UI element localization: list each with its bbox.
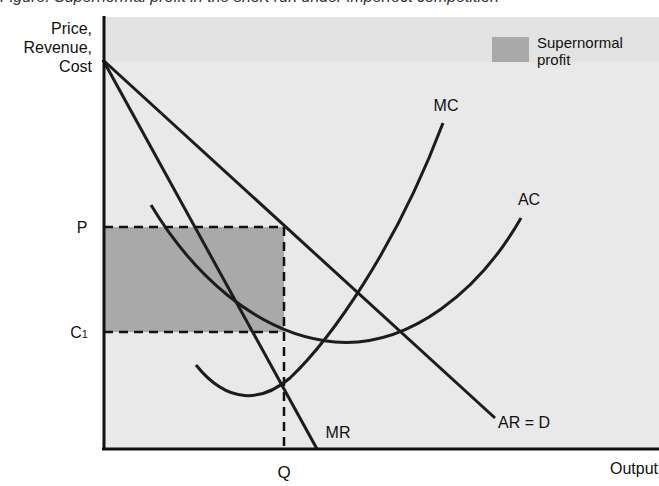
ac-label: AC [518,191,540,208]
y-axis-label-line-1: Price, [51,20,92,37]
y-axis-label-line-2: Revenue, [24,39,93,56]
mr-label: MR [326,424,351,441]
y-tick-p: P [77,219,88,236]
y-tick-c1: C1 [70,324,88,341]
legend-swatch [492,37,529,62]
y-tick-c1-base: C [70,324,82,341]
ar-d-label: AR = D [498,414,550,431]
y-axis-label-line-3: Cost [59,58,92,75]
chart: Price, Revenue, Cost P C1 Q Output MC AC… [0,0,659,486]
mc-label: MC [434,97,459,114]
legend-label-line-1: Supernormal [537,34,623,51]
x-axis-label: Output [610,460,659,477]
x-tick-q: Q [277,463,290,482]
legend-label-line-2: profit [537,51,571,68]
y-tick-c1-sub: 1 [82,328,88,340]
